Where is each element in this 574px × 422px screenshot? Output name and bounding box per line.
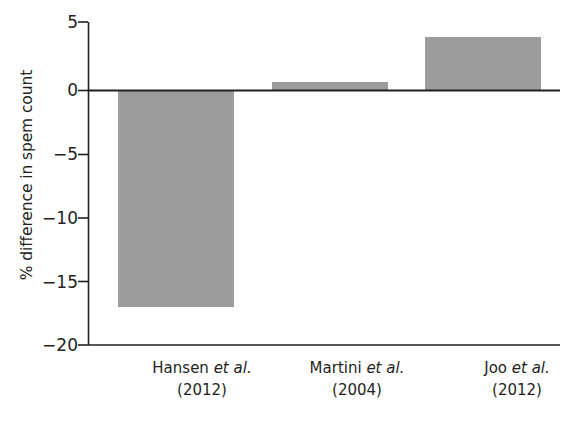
bar-martini — [272, 82, 388, 91]
y-tick-label-neg20: −20 — [34, 337, 78, 354]
y-tick-label-5: 5 — [34, 14, 78, 31]
x-label-joo-year: (2012) — [403, 380, 574, 402]
x-label-martini-etal: et al. — [366, 359, 404, 377]
x-label-martini-author: Martini — [310, 359, 367, 377]
x-label-hansen-author: Hansen — [152, 359, 213, 377]
y-tick-label-neg10: −10 — [34, 210, 78, 227]
y-axis-tick-labels: 5 0 −5 −10 −15 −20 — [20, 0, 78, 360]
y-tick-label-neg5: −5 — [34, 146, 78, 163]
x-label-joo-author: Joo — [484, 359, 512, 377]
y-tick-label-0: 0 — [34, 82, 78, 99]
x-label-joo-etal: et al. — [512, 359, 550, 377]
bar-hansen — [118, 91, 234, 307]
x-axis-category-labels: Hansen et al. (2012) Martini et al. (200… — [88, 358, 556, 422]
x-label-joo: Joo et al. (2012) — [403, 358, 574, 402]
y-tick-label-neg15: −15 — [34, 274, 78, 291]
x-label-joo-name: Joo et al. — [403, 358, 574, 380]
bar-chart-figure: % difference in spem count 5 0 −5 −10 −1… — [0, 0, 574, 422]
bar-joo — [425, 37, 541, 90]
